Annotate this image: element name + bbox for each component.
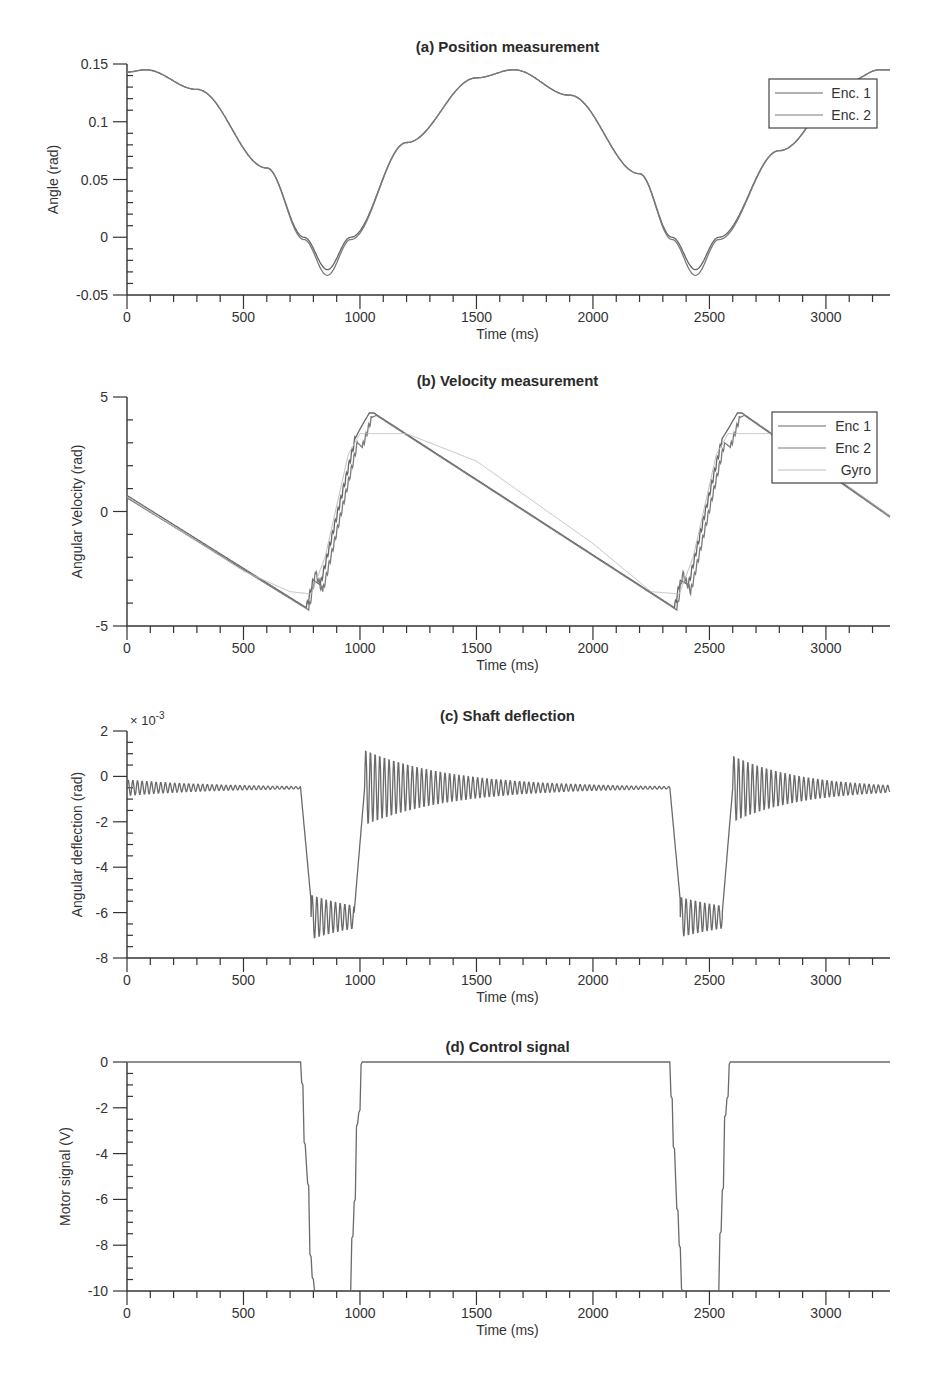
x-tick-label: 3000 (810, 1305, 841, 1321)
x-tick-label: 1000 (344, 972, 375, 988)
plot-area (127, 1062, 890, 1291)
x-tick-label: 1000 (344, 1305, 375, 1321)
y-tick-label: 0.15 (81, 56, 108, 72)
y-tick-label: 0.05 (81, 172, 108, 188)
x-tick-label: 2000 (577, 640, 608, 656)
x-tick-label: 0 (123, 309, 131, 325)
x-tick-label: 3000 (810, 640, 841, 656)
x-tick-label: 500 (232, 1305, 256, 1321)
x-tick-label: 500 (232, 309, 256, 325)
legend-entry: Enc. 1 (831, 85, 871, 101)
legend: Enc 1Enc 2Gyro (772, 412, 877, 483)
y-tick-label: -10 (88, 1283, 108, 1299)
plot-area (127, 751, 890, 937)
y-axis-label: Angular deflection (rad) (69, 772, 85, 918)
axes: 050010001500200025003000-10-8-6-4-20 (88, 1054, 890, 1321)
axes: 050010001500200025003000-0.0500.050.10.1… (76, 56, 890, 325)
x-tick-label: 0 (123, 640, 131, 656)
y-tick-label: -2 (96, 1100, 109, 1116)
y-tick-label: -6 (96, 905, 109, 921)
x-tick-label: 2500 (694, 640, 725, 656)
panel-a-position: (a) Position measurement Angle (rad) Tim… (45, 38, 890, 342)
x-axis-label: Time (ms) (476, 1322, 538, 1338)
chart-title: (d) Control signal (445, 1038, 569, 1055)
x-tick-label: 2500 (694, 309, 725, 325)
x-axis-label: Time (ms) (476, 989, 538, 1005)
y-multiplier-label: × 10-3 (130, 710, 165, 728)
x-tick-label: 2500 (694, 1305, 725, 1321)
y-tick-label: -4 (96, 1146, 109, 1162)
legend: Enc. 1Enc. 2 (769, 79, 877, 128)
x-tick-label: 0 (123, 1305, 131, 1321)
y-tick-label: -2 (96, 814, 109, 830)
legend-entry: Gyro (841, 462, 872, 478)
y-tick-label: 0 (100, 504, 108, 520)
y-tick-label: -6 (96, 1191, 109, 1207)
series-line-deflection (127, 751, 890, 937)
x-tick-label: 500 (232, 972, 256, 988)
y-tick-label: -5 (96, 618, 109, 634)
x-axis-label: Time (ms) (476, 326, 538, 342)
x-tick-label: 3000 (810, 972, 841, 988)
chart-title: (b) Velocity measurement (417, 372, 599, 389)
y-tick-label: 0 (100, 768, 108, 784)
figure: (a) Position measurement Angle (rad) Tim… (0, 0, 935, 1389)
y-tick-label: 0 (100, 1054, 108, 1070)
panel-d-control-signal: (d) Control signal Motor signal (V) Time… (57, 1038, 890, 1338)
legend-entry: Enc 1 (835, 418, 871, 434)
x-axis-label: Time (ms) (476, 657, 538, 673)
series-line-motor-signal (127, 1062, 890, 1291)
axes: 050010001500200025003000-505 (96, 389, 890, 656)
y-axis-label: Motor signal (V) (57, 1127, 73, 1226)
axes: 050010001500200025003000-8-6-4-202 (96, 723, 890, 988)
chart-title: (c) Shaft deflection (440, 707, 575, 724)
x-tick-label: 3000 (810, 309, 841, 325)
x-tick-label: 1500 (461, 309, 492, 325)
chart-title: (a) Position measurement (416, 38, 599, 55)
y-tick-label: -8 (96, 1237, 109, 1253)
x-tick-label: 0 (123, 972, 131, 988)
x-tick-label: 2000 (577, 1305, 608, 1321)
y-tick-label: 2 (100, 723, 108, 739)
y-tick-label: 0.1 (89, 114, 109, 130)
legend-entry: Enc. 2 (831, 107, 871, 123)
y-tick-label: 5 (100, 389, 108, 405)
x-tick-label: 2000 (577, 309, 608, 325)
x-tick-label: 1500 (461, 1305, 492, 1321)
panel-b-velocity: (b) Velocity measurement Angular Velocit… (69, 372, 890, 673)
y-tick-label: 0 (100, 229, 108, 245)
legend-entry: Enc 2 (835, 440, 871, 456)
x-tick-label: 1000 (344, 640, 375, 656)
x-tick-label: 2500 (694, 972, 725, 988)
y-tick-label: -4 (96, 859, 109, 875)
y-axis-label: Angle (rad) (45, 145, 61, 214)
x-tick-label: 500 (232, 640, 256, 656)
x-tick-label: 1000 (344, 309, 375, 325)
y-tick-label: -8 (96, 950, 109, 966)
y-axis-label: Angular Velocity (rad) (69, 445, 85, 579)
y-tick-label: -0.05 (76, 287, 108, 303)
x-tick-label: 1500 (461, 972, 492, 988)
x-tick-label: 2000 (577, 972, 608, 988)
panel-c-shaft-deflection: (c) Shaft deflection Angular deflection … (69, 707, 890, 1005)
x-tick-label: 1500 (461, 640, 492, 656)
